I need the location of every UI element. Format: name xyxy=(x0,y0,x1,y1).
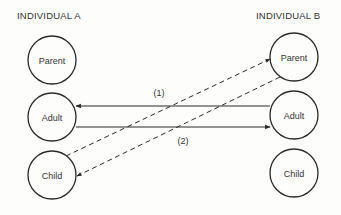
ta-diagram: Parent Adult Child Parent Adult Child (1… xyxy=(0,0,341,215)
b-child-state: Child xyxy=(270,149,318,197)
a-child-state: Child xyxy=(28,151,76,199)
transaction-1-dashed-arrow xyxy=(66,59,270,156)
b-child-label: Child xyxy=(284,169,305,179)
a-adult-label: Adult xyxy=(42,113,63,123)
b-parent-label: Parent xyxy=(281,53,308,63)
b-parent-state: Parent xyxy=(270,33,318,81)
transaction-1-label: (1) xyxy=(154,88,165,98)
a-child-label: Child xyxy=(42,171,63,181)
a-parent-label: Parent xyxy=(39,56,66,66)
a-adult-state: Adult xyxy=(28,93,76,141)
transaction-2-label: (2) xyxy=(178,136,189,146)
b-adult-label: Adult xyxy=(284,111,305,121)
b-adult-state: Adult xyxy=(270,91,318,139)
a-parent-state: Parent xyxy=(28,36,76,84)
